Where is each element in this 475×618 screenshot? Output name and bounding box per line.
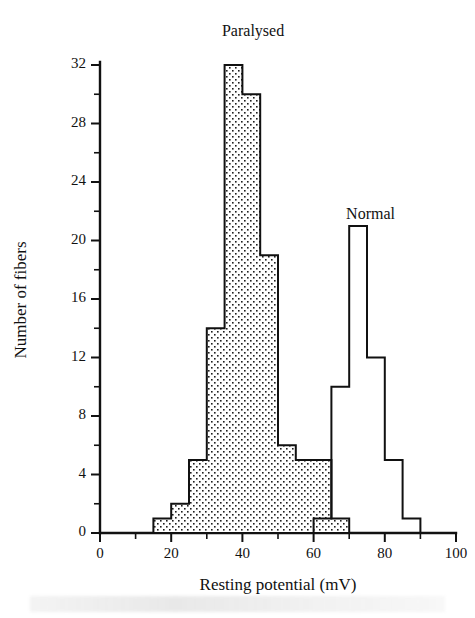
y-axis-tick-labels: 048121620242832 (71, 55, 87, 539)
y-axis: 048121620242832 Number of fibers (11, 55, 100, 539)
y-tick-label: 8 (79, 406, 87, 422)
x-axis-ticks (100, 533, 456, 542)
y-tick-label: 32 (71, 55, 86, 71)
paralysed-series-label: Paralysed (222, 22, 284, 40)
y-tick-label: 0 (79, 523, 87, 539)
x-tick-label: 20 (164, 545, 179, 561)
x-tick-label: 0 (96, 545, 104, 561)
page-caption-smudge (30, 596, 445, 612)
histogram-figure: 048121620242832 Number of fibers 0204060… (0, 0, 475, 618)
y-tick-label: 16 (71, 289, 87, 305)
x-axis-tick-labels: 020406080100 (96, 545, 467, 561)
y-axis-ticks (91, 65, 100, 533)
y-tick-label: 24 (71, 172, 87, 188)
y-tick-label: 4 (79, 465, 87, 481)
x-tick-label: 40 (235, 545, 250, 561)
x-axis: 020406080100 Resting potential (mV) (96, 533, 467, 594)
x-tick-label: 80 (377, 545, 392, 561)
x-tick-label: 100 (445, 545, 468, 561)
x-axis-title: Resting potential (mV) (200, 575, 357, 594)
paralysed-histogram (153, 65, 349, 533)
y-tick-label: 12 (71, 348, 86, 364)
y-tick-label: 20 (71, 231, 86, 247)
resting-potential-histogram: 048121620242832 Number of fibers 0204060… (0, 0, 475, 618)
x-tick-label: 60 (306, 545, 321, 561)
y-tick-label: 28 (71, 114, 86, 130)
y-axis-title: Number of fibers (11, 241, 30, 358)
normal-series-label: Normal (346, 205, 395, 222)
